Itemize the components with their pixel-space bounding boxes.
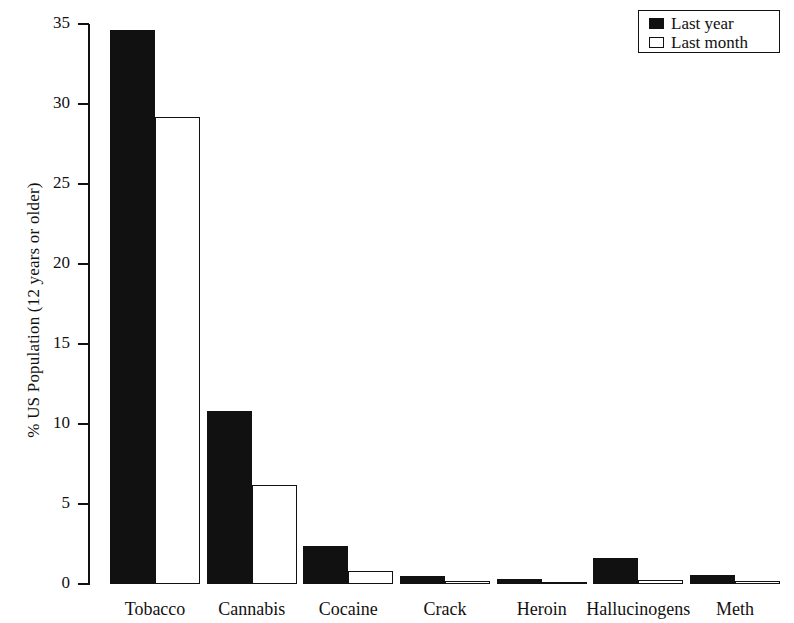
y-axis-tick [78,343,89,345]
x-axis-category-label: Cocaine [319,599,378,620]
legend-item-label: Last year [671,15,734,32]
bar-cannabis-last-year [207,411,252,584]
x-axis-category-label: Meth [716,599,754,620]
y-axis-tick-label: 10 [10,414,70,431]
y-axis-tick [78,423,89,425]
bar-heroin-last-month [542,582,587,584]
bar-crack-last-year [400,576,445,584]
y-axis-tick-label: 25 [10,174,70,191]
bar-heroin-last-year [497,579,542,584]
bar-hallucinogens-last-month [638,580,683,584]
bar-cocaine-last-year [303,546,348,584]
bar-tobacco-last-month [155,117,200,584]
y-axis-tick-label: 35 [10,14,70,31]
y-axis-tick [78,23,89,25]
y-axis-tick-label: 15 [10,334,70,351]
y-axis-tick [78,503,89,505]
x-axis-category-label: Heroin [517,599,567,620]
x-axis-category-label: Cannabis [218,599,285,620]
bar-meth-last-year [690,575,735,584]
y-axis-tick-label: 20 [10,254,70,271]
x-axis-category-label: Tobacco [125,599,186,620]
x-axis-category-label: Crack [424,599,467,620]
y-axis-tick [78,183,89,185]
outline-square-icon [649,37,664,48]
y-axis-tick-label: 0 [10,574,70,591]
y-axis-tick [78,103,89,105]
bar-chart: % US Population (12 years or older) 0510… [0,0,794,623]
y-axis-tick-label: 5 [10,494,70,511]
bar-cocaine-last-month [348,571,393,584]
y-axis-title: % US Population (12 years or older) [24,100,44,520]
bar-crack-last-month [445,581,490,584]
y-axis-tick [78,263,89,265]
x-axis-category-label: Hallucinogens [586,599,690,620]
legend: Last year Last month [638,10,780,53]
bar-cannabis-last-month [252,485,297,584]
bar-hallucinogens-last-year [593,558,638,584]
y-axis-tick [78,583,89,585]
legend-item-last-month: Last month [649,33,779,52]
bar-meth-last-month [735,581,780,584]
plot-area: TobaccoCannabisCocaineCrackHeroinHalluci… [90,10,780,585]
legend-item-label: Last month [671,34,748,51]
legend-item-last-year: Last year [649,14,779,33]
filled-square-icon [649,18,664,29]
bar-tobacco-last-year [110,30,155,584]
y-axis-tick-label: 30 [10,94,70,111]
